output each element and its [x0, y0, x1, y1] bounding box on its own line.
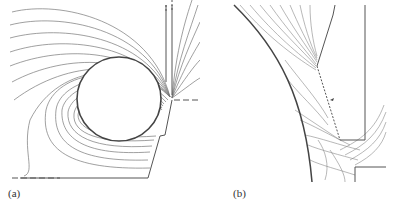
panel-a-diagram: [0, 0, 200, 190]
field-lines-a: [0, 0, 200, 190]
panel-label-b: (b): [233, 187, 246, 199]
field-lines-b: [200, 0, 394, 190]
panel-b-diagram: [200, 0, 394, 190]
circular-conductor: [77, 57, 161, 141]
panel-label-a: (a): [8, 187, 20, 199]
curved-boundary: [234, 5, 312, 182]
